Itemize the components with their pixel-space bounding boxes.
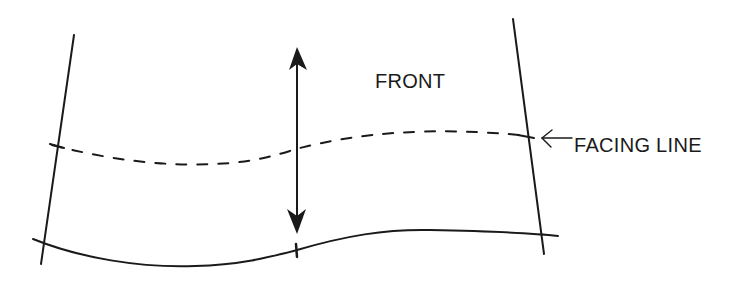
front-label: FRONT	[375, 70, 445, 93]
facing-line	[52, 131, 530, 164]
left-edge-line	[41, 35, 74, 264]
hem-tick	[296, 244, 297, 257]
facing-line-right-tick	[518, 135, 534, 138]
facing-line-label: FACING LINE	[574, 134, 702, 157]
